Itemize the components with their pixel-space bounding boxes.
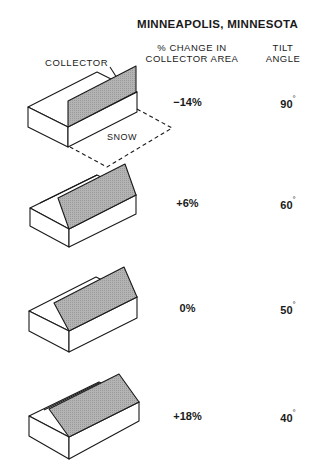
- building-90-deg: [28, 66, 172, 167]
- building-50-deg: [29, 267, 137, 352]
- building-60-deg: [30, 164, 136, 247]
- row-3-change: 0%: [160, 302, 215, 314]
- row-2-angle: 60°: [268, 197, 308, 211]
- row-1-change: −14%: [160, 96, 215, 108]
- row-4-angle: 40°: [268, 410, 308, 424]
- row-4-change: +18%: [160, 410, 215, 422]
- building-40-deg: [29, 374, 139, 459]
- row-3-angle: 50°: [268, 302, 308, 316]
- row-1-angle: 90°: [268, 96, 308, 110]
- building-illustrations: [0, 0, 323, 475]
- row-2-change: +6%: [160, 197, 215, 209]
